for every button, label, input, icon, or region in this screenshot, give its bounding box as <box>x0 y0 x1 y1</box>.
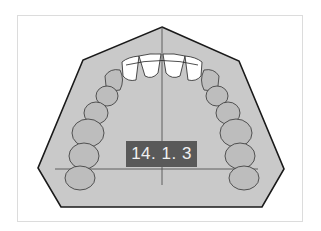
figure-number-label: 14. 1. 3 <box>126 141 197 167</box>
dental-arch-diagram <box>0 0 321 231</box>
